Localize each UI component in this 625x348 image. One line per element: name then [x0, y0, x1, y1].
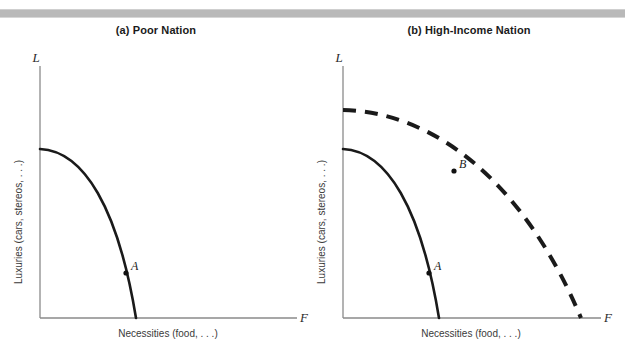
y-axis-symbol: L [31, 50, 39, 65]
panel-poor-nation: (a) Poor Nation L F A Necessities (food,… [0, 0, 312, 348]
y-axis-caption: Luxuries (cars, stereos, . . .) [316, 160, 327, 284]
data-point-a-marker [123, 270, 128, 275]
data-point-b-label: B [459, 157, 467, 171]
data-point-a-marker [426, 270, 431, 275]
plot-poor-nation: L F A Necessities (food, . . .) Luxuries… [0, 0, 312, 348]
data-point-a-label: A [433, 259, 442, 273]
y-axis-symbol: L [334, 50, 342, 65]
figure-root: (a) Poor Nation L F A Necessities (food,… [0, 0, 625, 348]
data-point-a-label: A [130, 259, 139, 273]
x-axis-caption: Necessities (food, . . .) [421, 328, 520, 339]
ppf-curve-solid [343, 149, 439, 318]
x-axis-caption: Necessities (food, . . .) [118, 328, 217, 339]
panel-high-income-nation: (b) High-Income Nation L F A B Necessiti… [313, 0, 625, 348]
x-axis-symbol: F [603, 310, 613, 325]
plot-high-income-nation: L F A B Necessities (food, . . .) Luxuri… [313, 0, 625, 348]
ppf-curve-solid [40, 149, 136, 318]
y-axis-caption: Luxuries (cars, stereos, . . .) [13, 160, 24, 284]
data-point-b-marker [451, 168, 456, 173]
ppf-curve-dashed [343, 110, 581, 318]
x-axis-symbol: F [299, 310, 309, 325]
